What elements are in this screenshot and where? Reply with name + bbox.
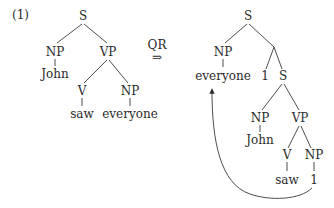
right-inner-s: S: [279, 69, 287, 83]
edge: [109, 60, 128, 83]
left-object-word: everyone: [102, 107, 158, 121]
edge: [288, 126, 299, 148]
left-v: V: [77, 84, 87, 98]
left-np-subject: NP: [46, 45, 65, 59]
qr-syntax-diagram: (1) S NP John VP V saw NP everyone QR ⇒ …: [0, 0, 334, 208]
edge: [284, 84, 299, 110]
right-np-trace: NP: [305, 148, 324, 162]
right-tree: S NP everyone 1 S NP John VP V saw NP 1: [195, 9, 323, 187]
edge: [225, 24, 247, 43]
edge: [274, 47, 282, 69]
right-raised-word: everyone: [195, 69, 251, 83]
right-verb-word: saw: [275, 173, 299, 187]
edge: [249, 24, 274, 47]
right-np-subject: NP: [251, 111, 270, 125]
right-np-raised: NP: [214, 45, 233, 59]
edge: [84, 60, 107, 83]
left-vp: VP: [99, 45, 117, 59]
right-root-s: S: [244, 9, 252, 23]
example-number: (1): [12, 8, 29, 22]
edge: [301, 126, 311, 148]
right-binder-index: 1: [261, 69, 269, 83]
edge: [262, 84, 282, 110]
qr-transformation: QR ⇒: [148, 38, 168, 64]
left-np-object: NP: [121, 84, 140, 98]
left-root-s: S: [79, 9, 87, 23]
left-verb-word: saw: [70, 107, 94, 121]
edge: [84, 24, 107, 43]
right-v: V: [282, 148, 292, 162]
right-subject-word: John: [244, 133, 274, 147]
right-vp: VP: [291, 111, 309, 125]
edge: [266, 47, 274, 69]
edge: [57, 24, 82, 43]
left-subject-word: John: [39, 67, 69, 81]
right-trace-index: 1: [310, 173, 318, 187]
double-arrow-icon: ⇒: [152, 50, 162, 64]
left-tree: S NP John VP V saw NP everyone: [39, 9, 158, 121]
